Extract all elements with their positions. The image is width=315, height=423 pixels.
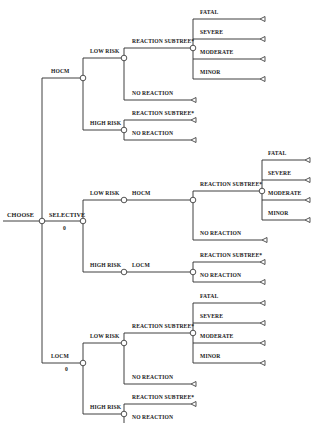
- chance-node: [121, 197, 127, 203]
- choose-label: CHOOSE: [7, 211, 34, 218]
- chance-node: [190, 197, 196, 203]
- chance-node: [121, 269, 127, 275]
- selective-low-agent-label: HOCM: [132, 190, 151, 196]
- locm-high-risk-label: HIGH RISK: [90, 404, 122, 410]
- locm-value: 0: [65, 366, 68, 372]
- locm-low-moderate-label: MODERATE: [200, 333, 233, 339]
- chance-node: [121, 411, 127, 417]
- selective-low-moderate-label: MODERATE: [268, 190, 301, 196]
- locm-high-no-reaction-label: NO REACTION: [132, 414, 173, 420]
- selective-high-no-reaction-label: NO REACTION: [200, 272, 241, 278]
- hocm-low-no-reaction-label: NO REACTION: [132, 90, 173, 96]
- selective-high-risk-label: HIGH RISK: [90, 262, 122, 268]
- chance-node: [190, 269, 196, 275]
- decision-tree-diagram: CHOOSE HOCM LOW RISK REACTION SUBTREE* F…: [0, 0, 315, 423]
- locm-low-risk-label: LOW RISK: [90, 333, 120, 339]
- strategy-hocm: HOCM LOW RISK REACTION SUBTREE* FATAL SE…: [42, 9, 265, 143]
- strategy-locm: LOCM 0 LOW RISK REACTION SUBTREE* FATAL …: [42, 293, 265, 423]
- hocm-low-minor-label: MINOR: [200, 69, 221, 75]
- selective-low-reaction-subtree-label: REACTION SUBTREE*: [200, 181, 262, 187]
- hocm-low-fatal-label: FATAL: [200, 9, 218, 15]
- selective-low-fatal-label: FATAL: [268, 150, 286, 156]
- selective-low-risk-label: LOW RISK: [90, 190, 120, 196]
- selective-high-agent-label: LOCM: [132, 262, 150, 268]
- decision-node: [39, 218, 45, 224]
- selective-value: 0: [63, 225, 66, 231]
- strategy-hocm-label: HOCM: [51, 68, 70, 74]
- hocm-high-no-reaction-label: NO REACTION: [132, 130, 173, 136]
- hocm-low-moderate-label: MODERATE: [200, 49, 233, 55]
- hocm-high-reaction-subtree-label: REACTION SUBTREE*: [132, 110, 194, 116]
- locm-low-minor-label: MINOR: [200, 353, 221, 359]
- selective-low-severe-label: SEVERE: [268, 170, 291, 176]
- hocm-high-risk-label: HIGH RISK: [90, 120, 122, 126]
- selective-high-reaction-subtree-label: REACTION SUBTREE*: [200, 252, 262, 258]
- locm-low-no-reaction-label: NO REACTION: [132, 374, 173, 380]
- locm-low-reaction-subtree-label: REACTION SUBTREE*: [132, 323, 194, 329]
- chance-node: [80, 360, 86, 366]
- hocm-low-severe-label: SEVERE: [200, 29, 223, 35]
- chance-node: [190, 330, 196, 336]
- strategy-selective: SELECTIVE 0 LOW RISK HOCM REACTION SUBTR…: [49, 150, 310, 285]
- chance-node: [259, 188, 265, 194]
- locm-high-reaction-subtree-label: REACTION SUBTREE*: [132, 394, 194, 400]
- chance-node: [80, 218, 86, 224]
- chance-node: [121, 340, 127, 346]
- strategy-selective-label: SELECTIVE: [49, 211, 85, 218]
- locm-low-severe-label: SEVERE: [200, 313, 223, 319]
- chance-node: [190, 45, 196, 51]
- hocm-low-reaction-subtree-label: REACTION SUBTREE*: [132, 38, 194, 44]
- selective-low-no-reaction-label: NO REACTION: [200, 230, 241, 236]
- hocm-low-risk-label: LOW RISK: [90, 48, 120, 54]
- locm-low-fatal-label: FATAL: [200, 293, 218, 299]
- chance-node: [121, 127, 127, 133]
- strategy-locm-label: LOCM: [51, 353, 69, 359]
- chance-node: [80, 75, 86, 81]
- chance-node: [121, 55, 127, 61]
- selective-low-minor-label: MINOR: [268, 210, 289, 216]
